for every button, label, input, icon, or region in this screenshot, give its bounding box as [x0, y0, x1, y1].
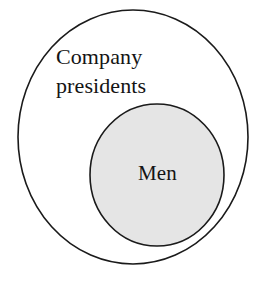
outer-set-label: Companypresidents	[56, 42, 146, 100]
outer-set-label-line-2: presidents	[56, 73, 146, 98]
inner-set-label: Men	[138, 160, 177, 188]
outer-set-label-line-1: Company	[56, 44, 142, 69]
euler-diagram-canvas: Companypresidents Men	[0, 0, 273, 284]
